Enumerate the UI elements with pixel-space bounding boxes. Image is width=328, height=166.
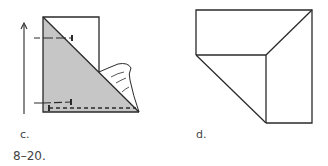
miter-line — [266, 10, 312, 55]
panel-label-c: c. — [20, 128, 30, 141]
figure-number: 8–20. — [13, 149, 46, 163]
panel-label-d: d. — [196, 128, 206, 141]
flap-fold-line-2 — [116, 78, 126, 83]
panel-d-diagram — [196, 10, 312, 123]
flap-fold-line-1 — [111, 72, 124, 77]
panel-c-diagram — [21, 17, 139, 114]
diagonal-edge — [196, 55, 266, 123]
flap-fold-line-3 — [122, 87, 129, 92]
figure-canvas — [0, 0, 328, 166]
